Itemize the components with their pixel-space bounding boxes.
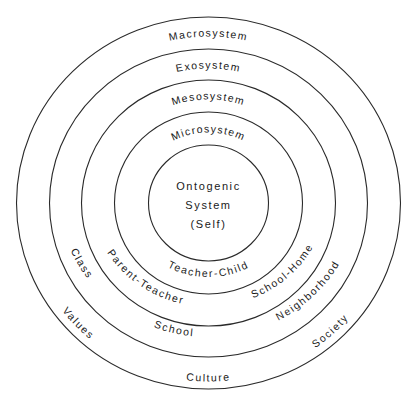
microsystem-label: Microsystem [169,122,248,142]
example-parent-teacher: Parent-Teacher [105,247,185,306]
ontogenic-label-line3: (Self) [191,218,227,230]
exosystem-label: Exosystem [175,59,243,74]
example-neighborhood: Neighborhood [274,258,342,323]
example-culture: Culture [186,370,231,383]
ontogenic-label-line1: Ontogenic [176,180,241,192]
mesosystem-label: Mesosystem [170,89,247,107]
example-values: Values [61,304,98,341]
macrosystem-label: Macrosystem [168,27,250,43]
nested-systems-diagram: Macrosystem Exosystem Mesosystem Microsy… [0,0,414,401]
ontogenic-label-line2: System [185,199,231,211]
